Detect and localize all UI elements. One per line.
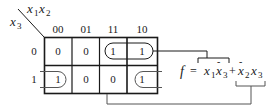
svg-text:x: x — [38, 1, 45, 16]
svg-text:x: x — [203, 63, 210, 78]
svg-text:2: 2 — [245, 70, 250, 80]
equation: f = x 1 x - 3 + x - 2 x 3 — [180, 56, 263, 80]
eq-lhs: f — [180, 64, 186, 79]
svg-text:3: 3 — [17, 21, 22, 31]
cell-r0-c0: 0 — [55, 45, 61, 57]
svg-text:3: 3 — [258, 70, 263, 80]
cell-r1-c1: 0 — [83, 73, 89, 85]
cell-r1-c0: 1 — [55, 73, 61, 85]
svg-text:-: - — [217, 56, 220, 67]
karnaugh-map-diagram: x 1 x 2 x 3 00 01 11 10 0 1 0 0 1 1 1 0 … — [0, 0, 275, 111]
eq-plus: + — [229, 64, 236, 78]
svg-text:x: x — [250, 63, 257, 78]
cell-r0-c1: 0 — [83, 45, 89, 57]
row-header-1: 1 — [31, 73, 37, 85]
svg-text:x: x — [9, 14, 16, 29]
col-header-00: 00 — [53, 23, 65, 35]
connector-term2 — [107, 86, 251, 104]
col-variable-label: x 1 x 2 — [26, 1, 51, 18]
connector-term1 — [153, 51, 207, 58]
svg-text:1: 1 — [211, 70, 216, 80]
col-header-10: 10 — [137, 23, 149, 35]
cell-r1-c3: 1 — [139, 73, 145, 85]
svg-text:x: x — [26, 1, 33, 16]
row-headers: 0 1 — [31, 45, 37, 85]
eq-equals: = — [190, 64, 197, 78]
cell-r0-c3: 1 — [139, 45, 145, 57]
svg-text:-: - — [239, 56, 242, 67]
row-variable-label: x 3 — [9, 14, 22, 31]
col-header-01: 01 — [81, 23, 92, 35]
bracket-term2 — [236, 81, 265, 86]
svg-text:3: 3 — [223, 70, 228, 80]
cell-r1-c2: 0 — [110, 73, 116, 85]
bracket-term1 — [198, 58, 229, 63]
svg-text:1: 1 — [34, 8, 39, 18]
svg-text:2: 2 — [46, 8, 51, 18]
row-header-0: 0 — [31, 45, 37, 57]
column-headers: 00 01 11 10 — [53, 23, 149, 35]
col-header-11: 11 — [108, 23, 119, 35]
cell-r0-c2: 1 — [110, 45, 116, 57]
